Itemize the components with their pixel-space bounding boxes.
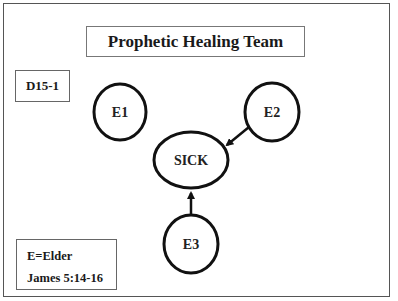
node-e2-label: E2 [264, 105, 280, 120]
node-e3: E3 [164, 215, 218, 273]
node-sick: SICK [154, 132, 228, 188]
node-e2: E2 [245, 83, 299, 141]
node-e1-label: E1 [112, 105, 128, 120]
node-e1: E1 [94, 84, 146, 140]
legend-line-scripture: James 5:14-16 [27, 267, 116, 289]
node-e3-label: E3 [183, 237, 199, 252]
legend-box: E=Elder James 5:14-16 [16, 239, 117, 290]
arrow-e2-to-sick [227, 127, 249, 145]
node-sick-label: SICK [174, 153, 208, 168]
legend-line-elder: E=Elder [27, 245, 116, 267]
